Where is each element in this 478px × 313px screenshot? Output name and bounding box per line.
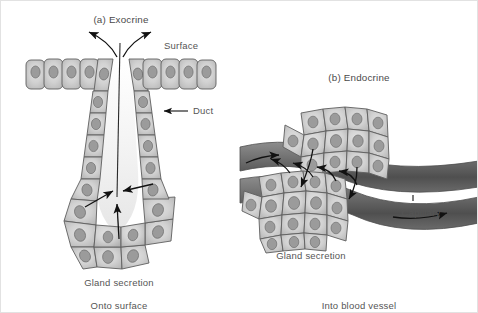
surface-epithelium-right [129, 59, 216, 91]
surface-epithelium-left [26, 59, 113, 91]
label-surface: Surface [164, 40, 198, 51]
panel-a-title: (a) Exocrine [93, 14, 149, 25]
label-onto-surface: Onto surface [91, 300, 148, 311]
panel-b-title: (b) Endocrine [328, 72, 390, 83]
diagram-canvas: (a) Exocrine (b) Endocrine Surface Duct … [1, 1, 478, 313]
duct-wall-right [134, 91, 161, 179]
gland-cluster-upper [283, 107, 389, 179]
gland-cluster-upper-cells [283, 107, 389, 179]
label-into-blood-vessel: Into blood vessel [322, 300, 397, 311]
label-gland-secretion-endocrine: Gland secretion [276, 250, 346, 261]
exocrine-panel [26, 32, 216, 269]
endocrine-panel [240, 107, 478, 253]
label-duct: Duct [193, 105, 213, 116]
label-capillary: Capillary [402, 207, 441, 218]
label-gland-secretion-exocrine: Gland secretion [84, 277, 154, 288]
gland-types-diagram: (a) Exocrine (b) Endocrine Surface Duct … [0, 0, 478, 313]
